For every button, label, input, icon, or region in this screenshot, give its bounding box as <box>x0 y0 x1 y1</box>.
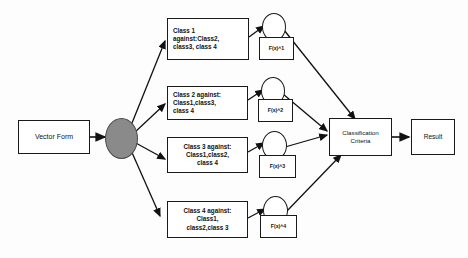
class-node-1[interactable]: Class 1 against:Class2, class3, class 4 <box>167 18 249 60</box>
edge-fx-1-to-criteria <box>284 30 355 119</box>
class-node-1-label: Class 1 against:Class2, class3, class 4 <box>173 27 243 52</box>
edge-hub-to-class-1 <box>130 41 165 128</box>
function-node-2-label: F(x)^2 <box>259 107 292 114</box>
edge-hub-to-class-2 <box>134 104 165 133</box>
function-node-2[interactable]: F(x)^2 <box>258 99 293 122</box>
input-node-label: Vector Form <box>19 132 89 141</box>
splitter-node-icon[interactable] <box>105 118 138 159</box>
input-node-vector-form[interactable]: Vector Form <box>18 120 90 154</box>
class-node-2[interactable]: Class 2 against: Class1,class3, class 4 <box>167 86 248 120</box>
edge-hub-to-class-3 <box>134 142 165 159</box>
edge-hub-to-class-4 <box>130 148 160 216</box>
class-node-2-label: Class 2 against: Class1,class3, class 4 <box>173 91 242 116</box>
edge-fx-3-to-criteria <box>285 135 327 147</box>
function-node-4-label: F(x)^4 <box>261 223 296 230</box>
function-node-1[interactable]: F(x)^1 <box>259 37 294 60</box>
function-node-3-label: F(x)^3 <box>260 163 295 170</box>
class-node-3[interactable]: Class 3 against: Class1,class2, class 4 <box>167 137 248 173</box>
result-node-label: Result <box>412 133 454 142</box>
class-node-4-label: Class 4 against: Class1, class2,class 3 <box>173 207 242 232</box>
function-node-1-label: F(x)^1 <box>260 45 293 52</box>
class-node-4[interactable]: Class 4 against: Class1, class2,class 3 <box>167 201 248 238</box>
classification-criteria-node[interactable]: Classification Criteria <box>329 118 392 156</box>
class-node-3-label: Class 3 against: Class1,class2, class 4 <box>173 143 242 168</box>
classification-criteria-label: Classification Criteria <box>330 129 391 145</box>
function-node-4[interactable]: F(x)^4 <box>260 215 297 238</box>
result-node[interactable]: Result <box>411 119 455 155</box>
function-node-3[interactable]: F(x)^3 <box>259 155 296 178</box>
diagram-canvas: Vector Form Class 1 against:Class2, clas… <box>0 0 468 258</box>
